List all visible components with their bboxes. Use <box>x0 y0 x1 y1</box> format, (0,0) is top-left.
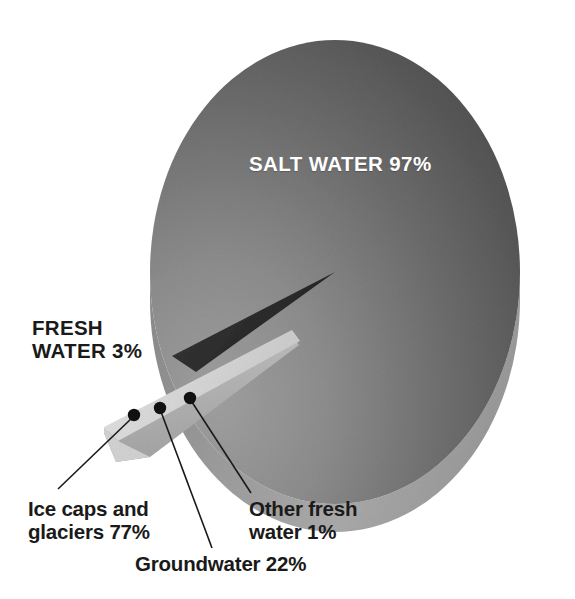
groundwater-label: Groundwater 22% <box>135 552 306 575</box>
callout-dot-other-fresh <box>184 392 196 404</box>
pie-chart-figure: SALT WATER 97% FRESH WATER 3% Ice caps a… <box>0 0 575 599</box>
ice-caps-label: Ice caps and glaciers 77% <box>28 497 150 544</box>
salt-water-label: SALT WATER 97% <box>249 152 432 175</box>
fresh-water-label: FRESH WATER 3% <box>32 316 142 363</box>
other-fresh-water-label: Other fresh water 1% <box>249 497 357 544</box>
callout-dot-groundwater <box>154 402 166 414</box>
callout-dot-ice-caps <box>128 409 140 421</box>
